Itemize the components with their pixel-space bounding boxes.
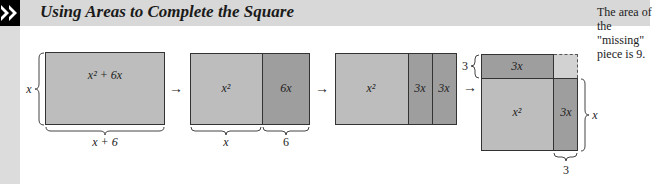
brace-icon <box>35 53 44 125</box>
missing-piece-note: The area of the "missing" piece is 9. <box>597 5 657 61</box>
note-line-2: the "missing" <box>597 19 657 47</box>
brace-icon <box>581 79 589 151</box>
brace-icon <box>554 153 577 161</box>
brace-icon <box>263 127 309 135</box>
brace-icon <box>46 127 164 135</box>
brace-icon <box>471 55 479 78</box>
note-line-1: The area of <box>597 5 657 19</box>
note-line-3: piece is 9. <box>597 47 657 61</box>
brace-icon <box>191 127 261 135</box>
